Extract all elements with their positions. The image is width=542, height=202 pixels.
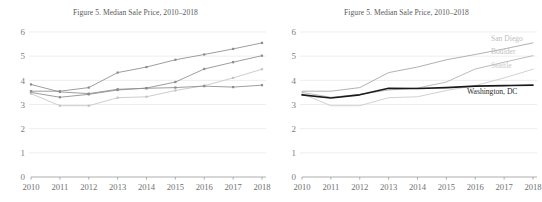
series-marker	[232, 61, 234, 63]
series-marker	[232, 48, 234, 50]
y-axis-tick-label: 6	[292, 27, 297, 37]
y-axis-tick-label: 5	[292, 51, 297, 61]
x-axis-tick-label: 2011	[51, 182, 68, 192]
x-axis-tick-label: 2013	[380, 182, 397, 192]
x-axis-tick-label: 2018	[524, 182, 541, 192]
x-axis-tick-label: 2017	[225, 182, 243, 192]
series-end-label: San Diego	[491, 34, 523, 43]
y-axis-tick-label: 4	[292, 76, 297, 86]
x-axis-tick-label: 2017	[496, 182, 514, 192]
series-marker	[261, 68, 263, 70]
y-axis-tick-label: 4	[21, 76, 26, 86]
series-marker	[88, 93, 90, 95]
y-axis-tick-label: 3	[21, 100, 26, 110]
series-marker	[59, 105, 61, 107]
series-marker	[203, 53, 205, 55]
series-marker	[59, 96, 61, 98]
y-axis-tick-label: 2	[292, 124, 297, 134]
y-axis-tick-label: 2	[21, 124, 26, 134]
series-marker	[261, 42, 263, 44]
series-marker	[117, 88, 119, 90]
series-marker	[88, 105, 90, 107]
series-marker	[117, 97, 119, 99]
series-marker	[232, 77, 234, 79]
series-marker	[174, 86, 176, 88]
series-marker	[174, 81, 176, 83]
x-axis-tick-label: 2010	[293, 182, 310, 192]
line-chart-left: 6543210201020112012201320142015201620172…	[0, 0, 271, 202]
y-axis-tick-label: 5	[21, 51, 26, 61]
y-axis-tick-label: 1	[292, 148, 297, 158]
series-marker	[30, 83, 32, 85]
series-marker	[145, 87, 147, 89]
series-end-label: Boulder	[491, 47, 516, 56]
series-end-label: Seattle	[491, 61, 512, 70]
series-marker	[88, 86, 90, 88]
y-axis-tick-label: 0	[21, 172, 26, 182]
series-line	[31, 56, 262, 98]
series-marker	[261, 55, 263, 57]
y-axis-tick-label: 3	[292, 100, 297, 110]
series-marker	[59, 91, 61, 93]
series-marker	[145, 96, 147, 98]
x-axis-tick-label: 2012	[80, 182, 97, 192]
line-chart-right: 6543210201020112012201320142015201620172…	[271, 0, 542, 202]
x-axis-tick-label: 2013	[109, 182, 126, 192]
y-axis-tick-label: 6	[21, 27, 26, 37]
x-axis-tick-label: 2011	[322, 182, 339, 192]
x-axis-tick-label: 2014	[409, 182, 427, 192]
x-axis-tick-label: 2010	[22, 182, 39, 192]
y-axis-tick-label: 1	[21, 148, 26, 158]
figure-pair: Figure 5. Median Sale Price, 2010–2018 6…	[0, 0, 542, 202]
series-marker	[145, 66, 147, 68]
series-marker	[232, 86, 234, 88]
series-marker	[174, 59, 176, 61]
series-marker	[30, 93, 32, 95]
x-axis-tick-label: 2015	[167, 182, 184, 192]
y-axis-tick-label: 0	[292, 172, 297, 182]
series-marker	[117, 72, 119, 74]
x-axis-tick-label: 2016	[467, 182, 485, 192]
x-axis-tick-label: 2018	[253, 182, 270, 192]
series-marker	[203, 85, 205, 87]
series-marker	[174, 89, 176, 91]
series-marker	[203, 68, 205, 70]
x-axis-tick-label: 2015	[438, 182, 455, 192]
series-end-label: Washington, DC	[467, 87, 517, 96]
chart-panel-left: Figure 5. Median Sale Price, 2010–2018 6…	[0, 0, 271, 202]
x-axis-tick-label: 2016	[196, 182, 214, 192]
chart-panel-right: Figure 5. Median Sale Price, 2010–2018 6…	[271, 0, 542, 202]
x-axis-tick-label: 2012	[351, 182, 368, 192]
series-marker	[261, 84, 263, 86]
x-axis-tick-label: 2014	[138, 182, 156, 192]
